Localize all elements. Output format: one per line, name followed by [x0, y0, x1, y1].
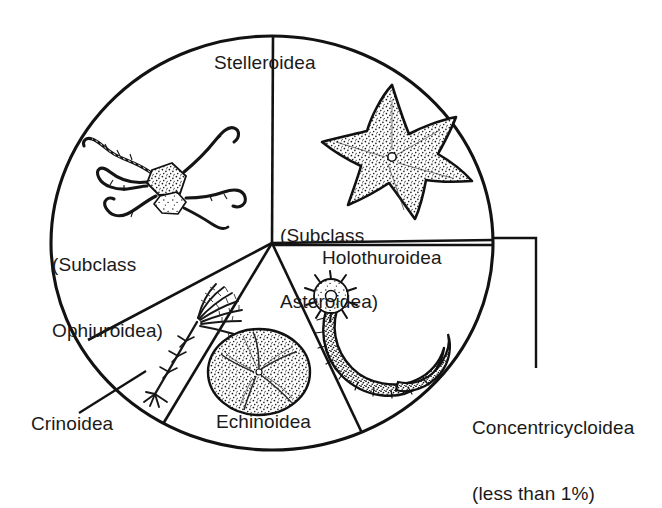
label-concentricycloidea-line2: (less than 1%): [472, 483, 634, 505]
label-subclass-ophiuroidea-line1: (Subclass: [52, 254, 163, 276]
label-subclass-ophiuroidea-line2: Ophiuroidea): [52, 320, 163, 342]
label-concentricycloidea-line1: Concentricycloidea: [472, 417, 634, 439]
label-crinoidea: Crinoidea: [31, 413, 113, 435]
label-concentricycloidea: Concentricycloidea (less than 1%): [472, 373, 634, 508]
concentricycloidea-leader-line: [493, 238, 536, 368]
label-subclass-asteroidea-line2: Asteroidea): [280, 291, 378, 313]
label-stelleroidea: Stelleroidea: [214, 52, 316, 74]
label-subclass-ophiuroidea: (Subclass Ophiuroidea): [52, 210, 163, 386]
label-subclass-asteroidea: (Subclass Asteroidea): [280, 181, 378, 357]
label-subclass-asteroidea-line1: (Subclass: [280, 225, 378, 247]
label-holothuroidea: Holothuroidea: [322, 247, 442, 269]
label-echinoidea: Echinoidea: [216, 411, 311, 433]
